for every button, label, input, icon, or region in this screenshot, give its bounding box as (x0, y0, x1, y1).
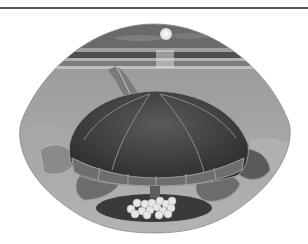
sea-band (0, 58, 308, 61)
turtle-tail (150, 186, 160, 198)
surf-line (0, 66, 308, 69)
sea-band (0, 48, 308, 52)
cloud (115, 35, 165, 41)
sea-band (0, 52, 308, 58)
sea-band (0, 61, 308, 66)
moon-reflection (156, 50, 174, 68)
turtle-illustration (0, 0, 308, 244)
night-sky (0, 20, 308, 50)
moon-icon (160, 28, 172, 40)
